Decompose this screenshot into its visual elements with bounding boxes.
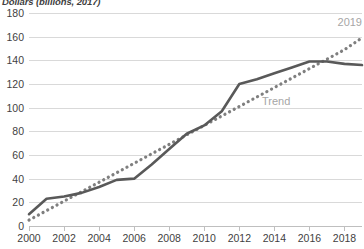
x-tick-label-2014: 2014 <box>263 232 286 244</box>
series-layer <box>29 13 362 226</box>
chart-title: Dollars (billions, 2017) <box>2 0 100 7</box>
y-tick-label-40: 40 <box>0 173 24 185</box>
x-tick-label-2002: 2002 <box>52 232 75 244</box>
annotation-trend-label: Trend <box>262 95 290 107</box>
x-tick-label-2000: 2000 <box>17 232 40 244</box>
x-tick-2000 <box>29 226 30 231</box>
x-tick-label-2012: 2012 <box>228 232 251 244</box>
x-tick-label-2004: 2004 <box>87 232 110 244</box>
y-tick-label-140: 140 <box>0 54 24 66</box>
x-tick-2008 <box>169 226 170 231</box>
x-tick-2016 <box>309 226 310 231</box>
y-tick-label-100: 100 <box>0 102 24 114</box>
x-tick-label-2016: 2016 <box>298 232 321 244</box>
x-tick-2010 <box>204 226 205 231</box>
x-tick-2006 <box>134 226 135 231</box>
y-tick-label-0: 0 <box>0 220 24 232</box>
actual-series-line <box>29 62 362 215</box>
x-tick-label-2006: 2006 <box>122 232 145 244</box>
x-tick-2012 <box>239 226 240 231</box>
x-axis-line <box>29 226 362 227</box>
x-tick-2014 <box>274 226 275 231</box>
y-tick-label-20: 20 <box>0 196 24 208</box>
y-tick-label-120: 120 <box>0 78 24 90</box>
y-tick-label-160: 160 <box>0 31 24 43</box>
x-tick-label-2018: 2018 <box>333 232 356 244</box>
annotation-2019-label: 2019 <box>338 16 362 28</box>
x-tick-2002 <box>64 226 65 231</box>
y-tick-label-60: 60 <box>0 149 24 161</box>
x-tick-label-2010: 2010 <box>193 232 216 244</box>
chart-container: Dollars (billions, 2017) 180160140120100… <box>0 0 364 249</box>
x-tick-2004 <box>99 226 100 231</box>
y-tick-label-80: 80 <box>0 125 24 137</box>
x-tick-label-2008: 2008 <box>158 232 181 244</box>
y-tick-label-180: 180 <box>0 7 24 19</box>
x-tick-2018 <box>344 226 345 231</box>
